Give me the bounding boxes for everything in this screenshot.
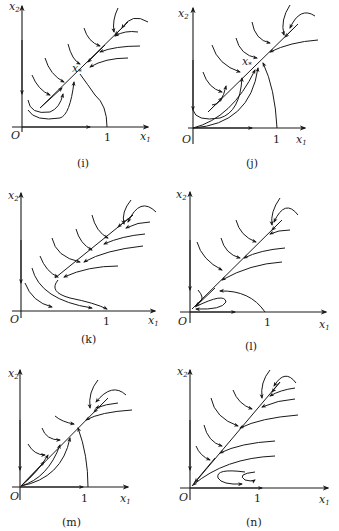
y-axis-label: x2 — [176, 188, 187, 202]
origin-label: O — [182, 133, 191, 146]
y-axis-label: x2 — [8, 367, 19, 381]
panel-k: x2 x1 O 1 (k) — [8, 189, 159, 346]
origin-label: O — [10, 313, 19, 326]
y-axis-label: x2 — [178, 7, 189, 21]
panel-i: x* x2 x1 O 1 (i) — [9, 0, 151, 170]
panel-caption: (i) — [77, 157, 89, 170]
x-axis-label: x1 — [296, 133, 307, 147]
origin-label: O — [179, 491, 188, 504]
origin-label: O — [11, 129, 20, 142]
panel-j: x* x2 x1 O 1 (j) — [178, 5, 318, 170]
panel-l: x2 x1 O 1 (l) — [176, 188, 330, 353]
phase-portrait-figure: x* x2 x1 O 1 (i) x* x2 x1 O 1 (j) — [0, 0, 339, 531]
tick-label-one: 1 — [81, 492, 88, 505]
x-axis-label: x1 — [319, 318, 330, 332]
x-axis-label: x1 — [148, 314, 159, 328]
tick-label-one: 1 — [264, 316, 271, 329]
panel-m: x2 x1 O 1 (m) — [8, 367, 132, 529]
panel-n: x2 x1 O 1 (n) — [177, 365, 330, 529]
panel-caption: (n) — [246, 516, 262, 529]
tick-label-one: 1 — [273, 133, 280, 146]
x-axis-label: x1 — [120, 492, 131, 506]
origin-label: O — [10, 490, 19, 503]
x-axis-label: x1 — [140, 130, 151, 144]
equilibrium-label: x* — [72, 62, 82, 76]
x-axis-label: x1 — [319, 493, 330, 507]
equilibrium-label: x* — [242, 55, 252, 69]
tick-label-one: 1 — [103, 315, 110, 328]
panel-caption: (k) — [81, 333, 96, 346]
y-axis-label: x2 — [9, 0, 20, 14]
panel-caption: (j) — [246, 157, 258, 170]
y-axis-label: x2 — [8, 189, 19, 203]
tick-label-one: 1 — [254, 492, 261, 505]
panel-caption: (l) — [245, 340, 257, 353]
tick-label-one: 1 — [104, 131, 111, 144]
origin-label: O — [178, 315, 187, 328]
panel-caption: (m) — [62, 516, 81, 529]
y-axis-label: x2 — [177, 365, 188, 379]
